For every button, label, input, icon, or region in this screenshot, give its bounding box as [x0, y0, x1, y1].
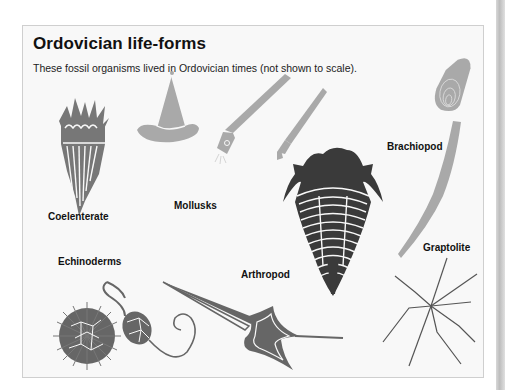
mollusk-orthocone-2-illustration: [277, 88, 327, 160]
coelenterate-illustration: [59, 98, 109, 216]
label-arthropod: Arthropod: [241, 269, 290, 280]
echinoderm-sphere-illustration: [53, 302, 121, 370]
graptolite-illustration: [383, 258, 477, 366]
label-brachiopod: Brachiopod: [387, 141, 443, 152]
page-scroll-rail: [496, 0, 505, 390]
label-coelenterate: Coelenterate: [48, 211, 109, 222]
label-mollusks: Mollusks: [174, 200, 217, 211]
trilobite-illustration: [283, 148, 383, 296]
fossil-illustrations: [23, 26, 485, 379]
label-graptolite: Graptolite: [423, 242, 470, 253]
brachiopod-illustration: [398, 54, 472, 258]
figure-panel: Ordovician life-forms These fossil organ…: [22, 25, 484, 378]
label-echinoderms: Echinoderms: [58, 256, 121, 267]
carpoid-illustration: [163, 282, 343, 370]
mollusk-cone-illustration: [137, 71, 199, 142]
